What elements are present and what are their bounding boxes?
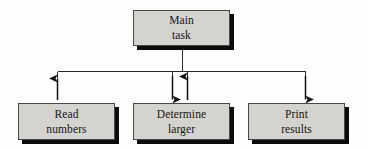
node-read-numbers[interactable]: Read numbers xyxy=(18,103,115,140)
node-determine-larger-line2: larger xyxy=(168,122,195,137)
node-main-task[interactable]: Main task xyxy=(133,10,230,46)
node-main-task-line2: task xyxy=(172,28,191,43)
node-determine-larger-line1: Determine xyxy=(157,107,206,122)
node-print-results-line2: results xyxy=(281,122,312,137)
structure-chart-diagram: Main task Read numbers Determine larger … xyxy=(0,0,367,148)
node-determine-larger[interactable]: Determine larger xyxy=(133,103,230,140)
node-read-numbers-line1: Read xyxy=(54,107,78,122)
node-read-numbers-line2: numbers xyxy=(46,122,86,137)
node-main-task-line1: Main xyxy=(169,13,194,28)
node-print-results[interactable]: Print results xyxy=(248,103,345,140)
node-print-results-line1: Print xyxy=(285,107,308,122)
